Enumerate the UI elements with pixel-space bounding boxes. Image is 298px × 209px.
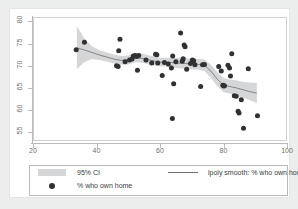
legend-item-points: % who own home	[30, 182, 132, 189]
y-tick	[28, 88, 32, 89]
scatter-point	[169, 65, 174, 70]
legend-label-points: % who own home	[74, 182, 132, 189]
x-tick-label: 40	[85, 147, 109, 154]
x-tick-label: 80	[212, 147, 236, 154]
y-tick-label: 60	[16, 100, 23, 118]
scatter-point	[173, 59, 178, 64]
scatter-point	[227, 65, 232, 70]
scatter-point	[116, 64, 121, 69]
scatter-point	[202, 62, 207, 67]
scatter-point	[228, 73, 233, 78]
scatter-point	[192, 62, 197, 67]
scatter-point	[237, 111, 242, 116]
scatter-point	[198, 84, 203, 89]
scatter-point	[216, 64, 221, 69]
scatter-point	[116, 48, 121, 53]
chart-svg	[33, 17, 287, 141]
scatter-point	[154, 52, 159, 57]
scatter-point	[135, 68, 140, 73]
y-tick	[28, 132, 32, 133]
scatter-point	[229, 51, 234, 56]
scatter-point	[219, 69, 224, 74]
scatter-point	[149, 61, 154, 66]
chart-screenshot: 556065707580 20406080100 95% CI lpoly sm…	[0, 0, 298, 209]
scatter-point	[82, 40, 87, 45]
scatter-point	[239, 97, 244, 102]
x-tick-label: 60	[148, 147, 172, 154]
scatter-point	[234, 94, 239, 99]
y-tick-label: 70	[16, 55, 23, 73]
scatter-point	[178, 30, 183, 35]
scatter-point	[246, 66, 251, 71]
x-tick-label: 20	[21, 147, 45, 154]
scatter-point	[155, 61, 160, 66]
y-tick	[28, 44, 32, 45]
y-tick-label: 75	[16, 33, 23, 51]
line-swatch-icon	[161, 172, 205, 173]
legend-label-smooth: lpoly smooth: % who own home	[205, 169, 298, 176]
scatter-point	[241, 126, 246, 131]
legend-item-ci: 95% CI	[30, 169, 100, 176]
scatter-point	[184, 67, 189, 72]
y-tick	[28, 66, 32, 67]
chart-legend: 95% CI lpoly smooth: % who own home % wh…	[29, 165, 288, 196]
y-tick	[28, 21, 32, 22]
x-tick-label: 100	[275, 147, 298, 154]
scatter-point	[170, 53, 175, 58]
dot-swatch-icon	[30, 183, 74, 189]
scatter-point	[170, 116, 175, 121]
scatter-point	[181, 56, 186, 61]
y-tick-label: 65	[16, 77, 23, 95]
y-tick-label: 80	[16, 11, 23, 29]
scatter-point	[166, 61, 171, 66]
scatter-point	[255, 113, 260, 118]
scatter-point	[183, 44, 188, 49]
y-tick	[28, 110, 32, 111]
legend-label-ci: 95% CI	[74, 169, 100, 176]
scatter-point	[123, 59, 128, 64]
scatter-point	[136, 53, 141, 58]
scatter-point	[117, 37, 122, 42]
scatter-point	[171, 81, 176, 86]
scatter-point	[144, 57, 149, 62]
scatter-point	[160, 73, 165, 78]
scatter-point	[222, 83, 227, 88]
y-tick-label: 55	[16, 122, 23, 140]
band-swatch-icon	[30, 169, 74, 176]
scatter-point	[74, 47, 79, 52]
legend-item-smooth: lpoly smooth: % who own home	[161, 169, 298, 176]
y-axis-line	[32, 16, 33, 143]
